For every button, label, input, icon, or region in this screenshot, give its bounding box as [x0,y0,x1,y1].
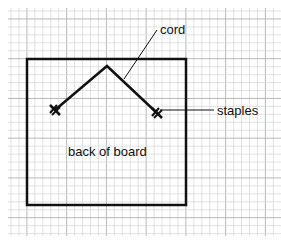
cord-label: cord [160,22,185,37]
diagram-svg: cord staples back of board [0,0,281,241]
cord-leader-line [124,30,157,79]
board-label: back of board [68,144,147,159]
graph-paper-grid [8,8,281,236]
diagram-canvas: cord staples back of board [0,0,281,241]
staples-label: staples [217,103,259,118]
